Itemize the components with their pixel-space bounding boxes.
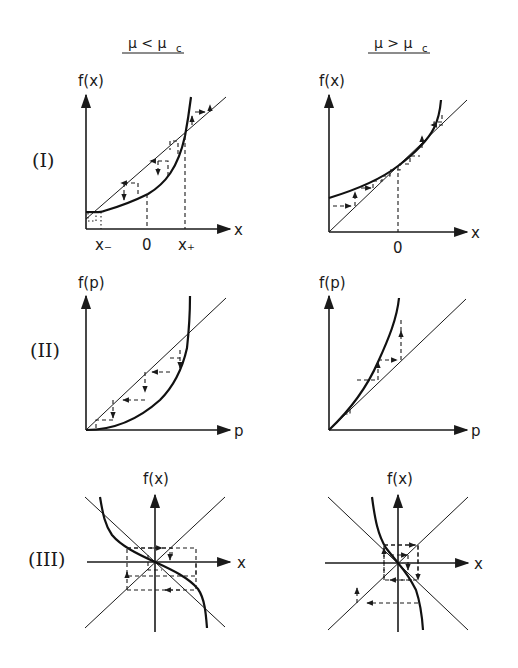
- panel-I-left: f(x) x x₋ 0 x₊: [78, 72, 243, 254]
- column-title-left: μ < μ c: [122, 35, 184, 54]
- svg-text:f(x): f(x): [78, 72, 104, 90]
- svg-text:x: x: [237, 554, 246, 572]
- svg-text:f(x): f(x): [143, 470, 169, 488]
- tick-zero: 0: [142, 236, 152, 254]
- svg-text:p: p: [471, 422, 481, 440]
- row-label-II: (II): [30, 339, 60, 361]
- row-label-I: (I): [32, 149, 54, 171]
- panel-I-right: f(x) x 0: [319, 72, 480, 257]
- svg-text:f(x): f(x): [387, 470, 413, 488]
- svg-text:f(p): f(p): [78, 274, 105, 292]
- column-title-right: μ > μ c: [368, 35, 430, 54]
- tick-x-minus: x₋: [95, 236, 112, 254]
- svg-text:x: x: [471, 224, 480, 242]
- svg-text:f(x): f(x): [319, 72, 345, 90]
- cobweb-figure: μ < μ c μ > μ c (I) (II) (III) f(x) x: [0, 0, 518, 668]
- svg-text:x: x: [234, 221, 243, 239]
- panel-II-right: f(p) p: [319, 274, 481, 440]
- svg-text:f(p): f(p): [319, 274, 346, 292]
- tick-zero: 0: [393, 239, 403, 257]
- svg-text:p: p: [234, 422, 244, 440]
- svg-text:c: c: [422, 43, 428, 54]
- svg-text:x: x: [474, 555, 483, 573]
- row-label-III: (III): [28, 548, 65, 570]
- svg-text:μ < μ: μ < μ: [128, 35, 167, 51]
- panel-III-right: f(x) x: [325, 470, 483, 632]
- tick-x-plus: x₊: [178, 236, 195, 254]
- svg-text:μ > μ: μ > μ: [374, 35, 413, 51]
- panel-III-left: f(x) x: [85, 470, 246, 632]
- svg-text:c: c: [176, 43, 182, 54]
- panel-II-left: f(p) p: [78, 274, 244, 440]
